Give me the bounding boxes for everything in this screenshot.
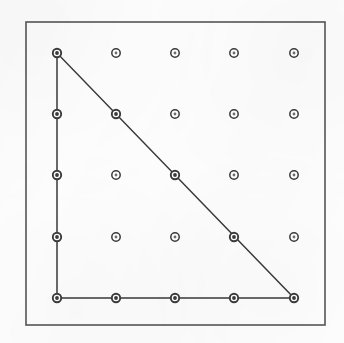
geoboard-peg[interactable] — [230, 171, 238, 179]
geoboard-peg[interactable] — [53, 49, 61, 57]
geoboard-peg[interactable] — [171, 49, 179, 57]
geoboard-peg[interactable] — [171, 294, 179, 302]
geoboard-peg[interactable] — [112, 233, 120, 241]
geoboard-peg[interactable] — [290, 233, 298, 241]
geoboard-peg[interactable] — [112, 110, 120, 118]
geoboard-peg[interactable] — [53, 110, 61, 118]
geoboard-peg[interactable] — [53, 171, 61, 179]
geoboard-peg[interactable] — [112, 171, 120, 179]
peg-center-dot-icon — [173, 296, 177, 300]
geoboard-peg[interactable] — [230, 233, 238, 241]
geoboard-peg[interactable] — [290, 110, 298, 118]
peg-center-dot-icon — [174, 113, 177, 116]
geoboard-peg[interactable] — [53, 294, 61, 302]
peg-center-dot-icon — [115, 174, 118, 177]
geoboard-peg[interactable] — [290, 49, 298, 57]
geoboard-peg[interactable] — [171, 110, 179, 118]
figure-canvas — [0, 0, 344, 343]
peg-center-dot-icon — [115, 236, 118, 239]
peg-center-dot-icon — [174, 236, 177, 239]
peg-center-dot-icon — [232, 235, 236, 239]
geoboard-peg[interactable] — [112, 294, 120, 302]
peg-center-dot-icon — [173, 173, 177, 177]
peg-center-dot-icon — [292, 296, 296, 300]
geoboard-peg[interactable] — [230, 49, 238, 57]
peg-center-dot-icon — [293, 52, 296, 55]
peg-center-dot-icon — [233, 174, 236, 177]
peg-center-dot-icon — [232, 296, 236, 300]
geoboard-peg[interactable] — [230, 294, 238, 302]
geoboard-peg[interactable] — [290, 171, 298, 179]
peg-center-dot-icon — [233, 113, 236, 116]
geoboard-peg[interactable] — [230, 110, 238, 118]
peg-center-dot-icon — [55, 112, 59, 116]
peg-center-dot-icon — [114, 112, 118, 116]
peg-center-dot-icon — [293, 174, 296, 177]
peg-center-dot-icon — [55, 296, 59, 300]
geoboard-peg[interactable] — [171, 233, 179, 241]
peg-center-dot-icon — [233, 52, 236, 55]
peg-center-dot-icon — [293, 113, 296, 116]
peg-center-dot-icon — [55, 51, 59, 55]
peg-center-dot-icon — [115, 52, 118, 55]
peg-center-dot-icon — [55, 173, 59, 177]
geoboard-peg[interactable] — [112, 49, 120, 57]
geoboard-peg[interactable] — [171, 171, 179, 179]
peg-center-dot-icon — [174, 52, 177, 55]
geoboard-peg[interactable] — [290, 294, 298, 302]
peg-center-dot-icon — [293, 236, 296, 239]
peg-center-dot-icon — [114, 296, 118, 300]
geoboard-figure — [0, 0, 344, 343]
peg-center-dot-icon — [55, 235, 59, 239]
geoboard-peg[interactable] — [53, 233, 61, 241]
